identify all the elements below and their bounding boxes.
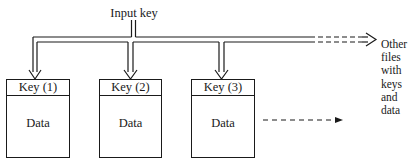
file-box-3: Key (3) Data <box>191 79 255 158</box>
file-key-1: Key (1) <box>7 80 69 96</box>
other-files-line: files <box>381 51 411 64</box>
file-data-1: Data <box>7 96 69 131</box>
file-key-2: Key (2) <box>100 80 161 96</box>
arrowhead-icon <box>335 117 343 123</box>
other-files-label: Other files with keys and data <box>381 38 411 117</box>
input-key-label: Input key <box>103 6 165 20</box>
file-data-2: Data <box>100 96 161 131</box>
file-data-3: Data <box>192 96 254 131</box>
file-key-3: Key (3) <box>192 80 254 96</box>
other-files-line: with <box>381 64 411 77</box>
other-files-line: Other <box>381 38 411 51</box>
file-box-1: Key (1) Data <box>6 79 70 158</box>
file-box-2: Key (2) Data <box>99 79 162 158</box>
other-files-line: keys <box>381 78 411 91</box>
other-files-line: data <box>381 104 411 117</box>
other-files-line: and <box>381 91 411 104</box>
